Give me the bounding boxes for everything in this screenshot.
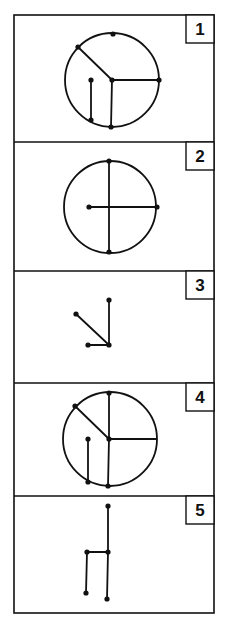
node-dot bbox=[88, 117, 93, 122]
node-dot bbox=[85, 342, 90, 347]
node-dot bbox=[106, 390, 111, 395]
hand-segment bbox=[108, 439, 109, 486]
hand-segment bbox=[86, 552, 87, 593]
node-dot bbox=[106, 436, 111, 441]
hand-segment bbox=[78, 47, 112, 80]
node-dot bbox=[72, 403, 77, 408]
panel-3: 3 bbox=[73, 271, 214, 348]
panel-5: 5 bbox=[83, 496, 214, 602]
panel-2: 2 bbox=[64, 142, 214, 255]
node-dot bbox=[86, 204, 91, 209]
puzzle-figure: 12345 bbox=[0, 0, 230, 628]
node-dot bbox=[85, 436, 90, 441]
node-dot bbox=[85, 479, 90, 484]
node-dot bbox=[108, 124, 113, 129]
node-dot bbox=[106, 342, 111, 347]
panel-number-label: 5 bbox=[195, 501, 204, 520]
panel-number-label: 2 bbox=[195, 147, 204, 166]
node-dot bbox=[75, 44, 80, 49]
panel-4: 4 bbox=[63, 383, 214, 489]
node-dot bbox=[88, 77, 93, 82]
node-dot bbox=[104, 596, 109, 601]
node-dot bbox=[106, 297, 111, 302]
node-dot bbox=[106, 158, 111, 163]
node-dot bbox=[106, 249, 111, 254]
node-dot bbox=[105, 483, 110, 488]
panel-1: 1 bbox=[65, 15, 214, 130]
node-dot bbox=[73, 311, 78, 316]
node-dot bbox=[154, 204, 159, 209]
panel-frame-border bbox=[14, 15, 214, 613]
hand-segment bbox=[111, 80, 112, 127]
node-dot bbox=[109, 77, 114, 82]
node-dot bbox=[156, 77, 161, 82]
panels: 12345 bbox=[63, 15, 214, 602]
node-dot bbox=[105, 549, 110, 554]
hand-segment bbox=[107, 552, 108, 599]
hand-segment bbox=[75, 406, 109, 439]
node-dot bbox=[84, 549, 89, 554]
node-dot bbox=[105, 503, 110, 508]
panel-number-label: 3 bbox=[195, 276, 204, 295]
node-dot bbox=[110, 31, 115, 36]
outer-frame bbox=[14, 15, 214, 613]
hand-segment bbox=[76, 314, 109, 345]
panel-number-label: 1 bbox=[195, 20, 204, 39]
node-dot bbox=[83, 590, 88, 595]
panel-number-label: 4 bbox=[195, 388, 205, 407]
